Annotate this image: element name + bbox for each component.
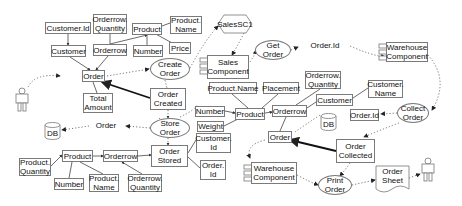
entity-product-quantity: Product. Quantity <box>19 158 51 176</box>
entity-customer-id: Customer.Id <box>45 22 91 34</box>
data-order-id-top-label: Order.Id <box>311 41 340 50</box>
process-store-order: Store Order <box>150 118 190 138</box>
entity-customer-id-mid: Customer. Id <box>196 133 231 153</box>
entity-orderrow-quantity-mid: Orderrow. Quantity <box>305 71 341 89</box>
entity-order: Order <box>82 70 105 82</box>
entity-total-amount: Total Amount <box>83 93 113 113</box>
entity-order-id-mid: Order. Id <box>200 160 226 180</box>
entity-placement: Placement <box>263 82 299 94</box>
process-get-order: Get Order <box>255 40 291 60</box>
entity-customer-mid: Customer <box>316 94 353 106</box>
entity-weight: Weight <box>197 121 224 132</box>
state-order-stored: Order Stored <box>151 145 188 167</box>
entity-orderrow-quantity: Orderrow. Quantity <box>93 14 127 34</box>
diagram-canvas: Customer.Id Orderrow. Quantity Product P… <box>0 0 462 206</box>
person-icon-left <box>16 88 28 111</box>
data-order: Order <box>89 117 123 133</box>
entity-product-bottom: Product <box>62 150 93 162</box>
entity-customer: Customer <box>51 45 86 57</box>
component-warehouse-top: Warehouse Component <box>386 42 428 62</box>
entity-order-mid: Order <box>268 131 292 143</box>
entity-orderrow-quantity-bottom: Orderrow. Quantity <box>128 174 162 192</box>
document-order-sheet: Order Sheet <box>376 166 409 186</box>
entity-number: Number <box>133 45 163 57</box>
component-sales: Sales Component <box>207 55 249 79</box>
process-print-order: Print Order <box>318 175 352 195</box>
database-db-right: DB <box>321 119 336 129</box>
entity-product-name-bottom: Product. Name <box>89 174 119 192</box>
entity-product-mid: Product <box>235 108 265 120</box>
entity-price: Price <box>169 42 191 54</box>
entity-product-name: Product. Name <box>170 16 202 34</box>
component-warehouse-bottom: Warehouse Component <box>251 162 297 184</box>
subsystem-salessc1: SalesSC1 <box>218 15 252 33</box>
entity-number-bottom: Number <box>54 178 84 190</box>
entity-orderrow-bottom: Orderrow <box>103 150 138 162</box>
data-order-label: Order <box>96 121 116 130</box>
entity-customer-name: Customer. Name <box>368 80 403 98</box>
entity-orderrow-mid: Orderrow <box>272 105 307 117</box>
entity-order-id-right: Order.Id <box>350 109 379 121</box>
process-create-order: Create Order <box>150 58 190 80</box>
entity-product: Product <box>132 23 162 35</box>
data-order-id-top: Order.Id <box>300 36 350 54</box>
entity-product-name-mid: Product.Name <box>209 82 257 94</box>
state-order-created: Order Created <box>150 88 186 110</box>
process-collect-order: Collect Order <box>397 103 429 123</box>
entity-number-mid: Number <box>195 106 225 117</box>
entity-orderrow: Orderrow <box>93 44 127 56</box>
state-order-collected: Order Collected <box>336 139 375 163</box>
person-icon-right <box>422 158 434 181</box>
database-db-left: DB <box>45 128 60 138</box>
